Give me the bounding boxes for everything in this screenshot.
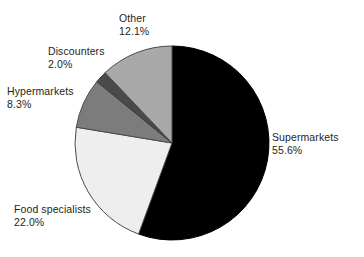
pie-chart-figure: Other 12.1% Discounters 2.0% Hypermarket… — [0, 0, 364, 257]
pie-label-other: Other 12.1% — [119, 12, 149, 37]
pie-label-discounters-value: 2.0% — [48, 58, 105, 71]
pie-label-other-value: 12.1% — [119, 25, 149, 38]
pie-label-discounters-name: Discounters — [48, 45, 105, 58]
pie-label-hypermarkets: Hypermarkets 8.3% — [7, 85, 74, 110]
pie-label-supermarkets: Supermarkets 55.6% — [272, 131, 339, 156]
pie-slice-group — [75, 46, 269, 240]
pie-label-hypermarkets-name: Hypermarkets — [7, 85, 74, 98]
pie-label-other-name: Other — [119, 12, 149, 25]
pie-label-food-specialists-value: 22.0% — [14, 216, 91, 229]
pie-label-food-specialists: Food specialists 22.0% — [14, 203, 91, 228]
pie-label-discounters: Discounters 2.0% — [48, 45, 105, 70]
pie-label-hypermarkets-value: 8.3% — [7, 98, 74, 111]
pie-label-supermarkets-value: 55.6% — [272, 144, 339, 157]
pie-label-supermarkets-name: Supermarkets — [272, 131, 339, 144]
pie-label-food-specialists-name: Food specialists — [14, 203, 91, 216]
